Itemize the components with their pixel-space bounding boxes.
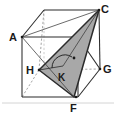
vertex-label-H: H [26,64,34,76]
vertex-dot-C [98,9,101,12]
vertex-label-G: G [103,63,112,75]
cube-diagram-svg: A C G H F K [0,0,116,116]
point-label-K: K [58,72,66,83]
vertex-label-C: C [101,3,109,15]
vertex-dot-A [21,36,24,39]
vertex-label-A: A [9,31,17,43]
vertex-dot-H [38,69,41,72]
geometry-figure: A C G H F K [0,0,116,116]
vertex-dot-F [75,96,78,99]
angle-dot [73,57,76,60]
vertex-label-F: F [70,102,77,114]
vertex-dot-G [99,68,102,71]
